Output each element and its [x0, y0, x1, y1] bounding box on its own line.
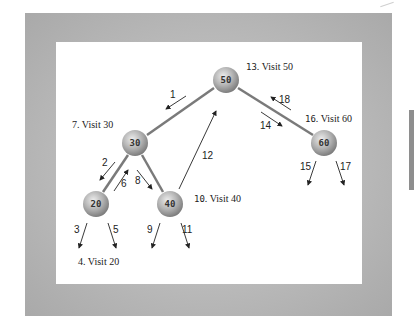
step-9: 9 [147, 224, 153, 235]
visit-label-50: 13. Visit 50 [246, 61, 293, 72]
node-40: 40 [157, 191, 183, 217]
svg-text:40: 40 [165, 199, 176, 209]
step-18: 18 [279, 94, 290, 105]
node-20: 20 [83, 191, 109, 217]
svg-text:30: 30 [130, 138, 141, 148]
arrow-3 [79, 223, 87, 248]
visit-label-60: 16. Visit 60 [305, 113, 352, 124]
arrow-9 [152, 223, 160, 248]
svg-text:60: 60 [319, 138, 330, 148]
visit-label-30: 7. Visit 30 [72, 119, 113, 130]
step-3: 3 [74, 224, 80, 235]
node-50: 50 [213, 67, 239, 93]
visit-label-40: 10. Visit 40 [194, 193, 241, 204]
edge-50-60 [238, 88, 313, 135]
tree-diagram: 50 30 60 20 40 [0, 0, 414, 329]
svg-text:20: 20 [91, 199, 102, 209]
edge-30-40 [142, 155, 163, 192]
step-14: 14 [260, 120, 271, 131]
step-1: 1 [170, 89, 176, 100]
step-5: 5 [113, 224, 119, 235]
step-2: 2 [102, 157, 108, 168]
step-8: 8 [135, 175, 141, 186]
edge-50-30 [147, 88, 214, 135]
step-15: 15 [300, 161, 311, 172]
step-12: 12 [202, 150, 213, 161]
step-11: 11 [182, 224, 192, 235]
visit-label-20: 4. Visit 20 [78, 256, 119, 267]
step-6: 6 [121, 178, 127, 189]
node-60: 60 [311, 130, 337, 156]
arrow-1 [166, 96, 186, 109]
step-17: 17 [340, 161, 351, 172]
node-30: 30 [122, 130, 148, 156]
svg-text:50: 50 [221, 75, 232, 85]
